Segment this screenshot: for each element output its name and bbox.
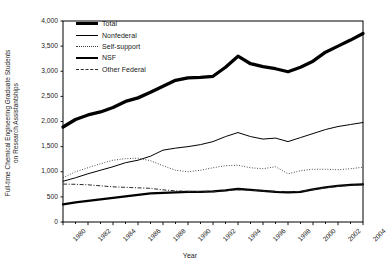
chart-legend: TotalNonfederalSelf-supportNSFOther Fede… bbox=[74, 18, 178, 75]
legend-item: Total bbox=[74, 18, 178, 29]
x-axis-tick-label: 1980 bbox=[71, 227, 86, 242]
legend-key-swatch bbox=[74, 41, 99, 52]
legend-item: NSF bbox=[74, 52, 178, 63]
legend-key-swatch bbox=[74, 64, 99, 75]
x-axis-tick-label: 1998 bbox=[296, 227, 311, 242]
x-axis-tick-label: 1982 bbox=[96, 227, 111, 242]
x-axis-tick-label: 1992 bbox=[221, 227, 236, 242]
legend-item-label: Nonfederal bbox=[99, 32, 137, 39]
legend-item-label: NSF bbox=[99, 54, 116, 61]
legend-item: Self-support bbox=[74, 41, 178, 52]
x-axis-tick-label: 1986 bbox=[146, 227, 161, 242]
x-axis-tick-label: 1984 bbox=[121, 227, 136, 242]
legend-key-swatch bbox=[74, 30, 99, 41]
x-axis-tick-label: 1996 bbox=[271, 227, 286, 242]
legend-key-swatch bbox=[74, 52, 99, 63]
x-axis-title: Year bbox=[0, 252, 380, 259]
x-axis-tick-label: 1994 bbox=[246, 227, 261, 242]
legend-key-swatch bbox=[74, 18, 99, 29]
x-axis-tick-label: 2004 bbox=[371, 227, 386, 242]
legend-item: Other Federal bbox=[74, 64, 178, 75]
x-axis-tick-label: 2000 bbox=[321, 227, 336, 242]
legend-item: Nonfederal bbox=[74, 29, 178, 40]
legend-item-label: Other Federal bbox=[99, 66, 146, 73]
x-axis-tick-label: 1990 bbox=[196, 227, 211, 242]
x-axis-tick-label: 2002 bbox=[346, 227, 361, 242]
x-axis-tick-label: 1988 bbox=[171, 227, 186, 242]
legend-item-label: Total bbox=[99, 20, 117, 27]
legend-item-label: Self-support bbox=[99, 43, 140, 50]
